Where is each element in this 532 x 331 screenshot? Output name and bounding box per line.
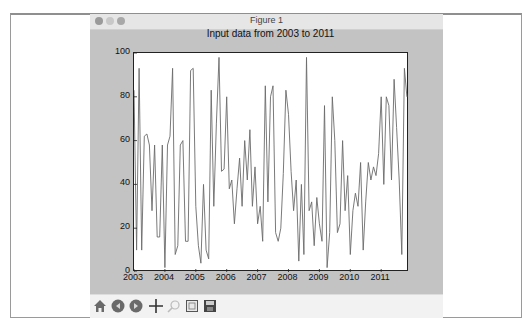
subplots-config-icon	[185, 299, 199, 313]
y-tick-label: 40	[110, 177, 130, 187]
x-tick-label: 2010	[334, 272, 364, 282]
y-tick-label: 20	[110, 221, 130, 231]
x-tick-label: 2006	[211, 272, 241, 282]
zoom-rect-icon	[167, 299, 181, 313]
forward-button[interactable]	[128, 298, 144, 314]
forward-arrow-icon	[129, 299, 143, 313]
back-button[interactable]	[110, 298, 126, 314]
data-series-line	[134, 57, 407, 267]
zoom-rect-button[interactable]	[166, 298, 182, 314]
x-tick-label: 2004	[149, 272, 179, 282]
x-tick-label: 2003	[118, 272, 148, 282]
y-tick-label: 80	[110, 90, 130, 100]
plot-title: Input data from 2003 to 2011	[133, 28, 408, 39]
y-tick-label: 100	[110, 46, 130, 56]
figure-canvas[interactable]: Input data from 2003 to 2011 02040608010…	[90, 30, 443, 294]
back-arrow-icon	[111, 299, 125, 313]
figure-window: Figure 1 Input data from 2003 to 2011 02…	[90, 14, 443, 317]
home-button[interactable]	[92, 298, 108, 314]
pan-button[interactable]	[148, 298, 164, 314]
line-plot	[134, 53, 409, 272]
plot-axes[interactable]	[133, 52, 408, 271]
y-tick-label: 60	[110, 134, 130, 144]
x-tick-label: 2007	[242, 272, 272, 282]
x-tick-label: 2009	[303, 272, 333, 282]
x-tick-label: 2005	[180, 272, 210, 282]
home-icon	[93, 299, 107, 313]
pan-cross-icon	[149, 299, 163, 313]
window-title: Figure 1	[90, 15, 443, 25]
save-disk-icon	[203, 299, 217, 313]
subplots-button[interactable]	[184, 298, 200, 314]
x-tick-label: 2011	[365, 272, 395, 282]
save-button[interactable]	[202, 298, 218, 314]
x-tick-label: 2008	[272, 272, 302, 282]
navigation-toolbar	[90, 294, 443, 318]
